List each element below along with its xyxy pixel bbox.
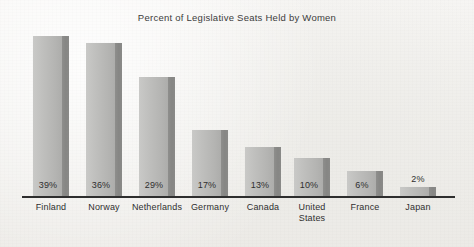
- bar-value-netherlands: 29%: [139, 180, 175, 190]
- chart-container: Percent of Legislative Seats Held by Wom…: [0, 0, 474, 247]
- bar-group-france[interactable]: 6%: [347, 171, 383, 196]
- bar-value-united-states: 10%: [294, 180, 330, 190]
- category-label-united-states: United States: [283, 202, 341, 223]
- category-label-france: France: [336, 202, 394, 213]
- category-label-united-states-line1: United: [283, 202, 341, 213]
- bar-group-netherlands[interactable]: 29%: [139, 77, 175, 196]
- category-label-germany: Germany: [180, 202, 240, 213]
- bar-value-germany: 17%: [192, 180, 228, 190]
- bar-value-norway: 36%: [86, 180, 122, 190]
- bar-group-canada[interactable]: 13%: [245, 147, 281, 196]
- x-axis-baseline: [22, 196, 455, 198]
- bar-group-norway[interactable]: 36%: [86, 43, 122, 196]
- bar-edge-netherlands: [168, 77, 175, 196]
- plot-area: 39% Finland 36% Norway 29% Netherlands 1…: [0, 0, 474, 247]
- bar-value-canada: 13%: [245, 180, 281, 190]
- bar-edge-finland: [62, 36, 69, 196]
- bar-group-japan[interactable]: 2%: [400, 187, 436, 196]
- bar-edge-norway: [115, 43, 122, 196]
- category-label-finland: Finland: [22, 202, 80, 213]
- bar-value-france: 6%: [347, 180, 383, 190]
- category-label-united-states-line2: States: [283, 213, 341, 224]
- bar-group-finland[interactable]: 39%: [33, 36, 69, 196]
- bar-group-united-states[interactable]: 10%: [294, 158, 330, 196]
- bar-edge-united-states: [323, 158, 330, 196]
- bar-value-japan: 2%: [400, 174, 436, 184]
- bar-value-finland: 39%: [33, 180, 69, 190]
- category-label-japan: Japan: [389, 202, 447, 213]
- bar-edge-japan: [429, 187, 436, 196]
- bar-group-germany[interactable]: 17%: [192, 130, 228, 196]
